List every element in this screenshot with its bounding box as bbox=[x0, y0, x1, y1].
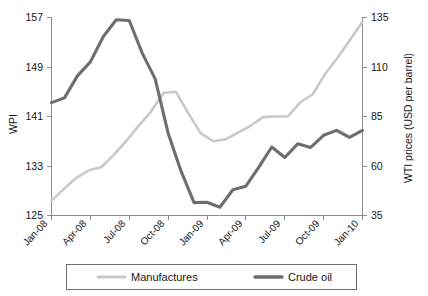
x-tick-jan-10: Jan-10 bbox=[332, 218, 361, 248]
left-tick-141: 141 bbox=[25, 110, 43, 122]
x-tick-apr-08: Apr-08 bbox=[60, 218, 89, 248]
x-tick-jan-08: Jan-08 bbox=[21, 218, 50, 248]
legend: Manufactures Crude oil bbox=[67, 265, 357, 290]
bottom-axis-tick-labels: Jan-08 Apr-08 Jul-08 Oct-08 Jan-09 Apr-0… bbox=[21, 218, 361, 248]
x-tick-oct-08: Oct-08 bbox=[138, 218, 167, 248]
left-tick-149: 149 bbox=[25, 61, 43, 73]
series-line-crude-oil bbox=[52, 20, 363, 208]
right-tick-110: 110 bbox=[371, 61, 388, 73]
x-tick-apr-09: Apr-09 bbox=[216, 218, 245, 248]
right-axis-tick-labels: 135 110 85 60 35 bbox=[371, 11, 389, 221]
series-group bbox=[52, 20, 363, 208]
right-tick-60: 60 bbox=[371, 160, 383, 172]
chart-container: 157 149 141 133 125 135 110 85 60 35 bbox=[0, 0, 428, 296]
bottom-axis-ticks bbox=[52, 216, 363, 221]
right-tick-85: 85 bbox=[371, 110, 383, 122]
legend-label-crude-oil[interactable]: Crude oil bbox=[288, 271, 332, 283]
left-axis-ticks bbox=[47, 18, 52, 216]
left-tick-133: 133 bbox=[25, 160, 43, 172]
right-axis-title: WTI prices (USD per barrel) bbox=[402, 53, 414, 183]
x-tick-jul-08: Jul-08 bbox=[101, 218, 128, 246]
right-tick-135: 135 bbox=[371, 11, 389, 23]
left-tick-157: 157 bbox=[25, 11, 43, 23]
x-tick-oct-09: Oct-09 bbox=[293, 218, 322, 248]
dual-axis-line-chart: 157 149 141 133 125 135 110 85 60 35 bbox=[0, 0, 428, 296]
right-tick-35: 35 bbox=[371, 209, 383, 221]
left-axis-title: WPI bbox=[7, 114, 19, 134]
x-tick-jul-09: Jul-09 bbox=[256, 218, 283, 246]
right-axis-ticks bbox=[363, 18, 368, 216]
legend-label-manufactures[interactable]: Manufactures bbox=[131, 271, 198, 283]
x-tick-jan-09: Jan-09 bbox=[177, 218, 206, 248]
left-axis-tick-labels: 157 149 141 133 125 bbox=[25, 11, 43, 221]
